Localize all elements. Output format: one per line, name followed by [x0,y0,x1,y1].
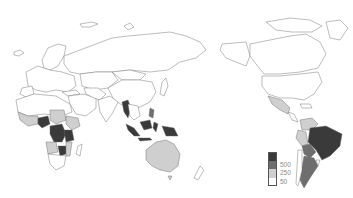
region-southern-africa [48,154,66,170]
legend-swatch-50 [268,178,277,187]
region-greenland [326,20,348,40]
legend-row-500: 500 [268,161,304,170]
region-java [138,138,152,141]
map-legend: 500 250 50 [268,152,304,186]
legend-swatch-250 [268,169,277,178]
region-se-asia [128,104,140,120]
region-peru [296,130,308,146]
legend-row-top [268,152,304,161]
region-novaya-zemlya [124,23,134,30]
region-usa [262,72,322,100]
region-russia [64,32,206,74]
region-tasmania [168,176,172,180]
region-scandinavia [42,44,66,70]
region-svalbard [80,22,98,27]
legend-label-50: 50 [280,178,287,186]
region-madagascar [76,144,82,156]
region-new-zealand [194,166,204,180]
region-japan [160,78,168,96]
region-nigeria [38,116,50,128]
region-sudan-light [50,110,66,124]
region-zambia-zim [58,146,66,156]
legend-label-500: 500 [280,161,291,169]
region-sulawesi [153,122,158,132]
legend-label-250: 250 [280,169,291,177]
legend-row-250: 250 [268,169,304,178]
region-central-america [288,112,298,122]
region-australia [146,140,180,172]
region-india [98,96,118,122]
region-alaska [220,42,250,66]
region-borneo [140,120,152,130]
region-mexico [268,96,290,114]
region-angola [46,142,58,154]
region-canada [250,34,326,74]
legend-swatch-high [268,152,277,161]
region-canada-arctic [266,18,322,32]
region-caribbean [300,104,312,108]
region-sumatra [126,124,140,136]
region-east-africa-dark [64,130,74,142]
region-iceland [14,50,24,56]
legend-swatch-500 [268,161,277,170]
region-mozambique [66,142,72,156]
legend-row-50: 50 [268,178,304,187]
region-middle-east [68,94,96,116]
region-drc [50,124,66,142]
region-philippines [149,108,154,118]
region-new-guinea [162,126,178,136]
region-horn-africa [66,116,80,130]
